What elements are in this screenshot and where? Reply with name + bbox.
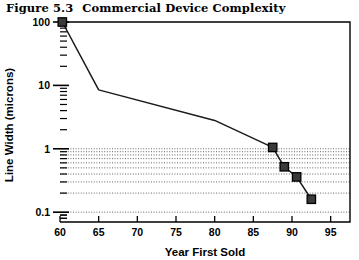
data-point-marker [268, 143, 276, 151]
y-tick-label: 0.1 [35, 206, 50, 218]
axis-tick-labels: 60657075808590951001010.1 [32, 16, 336, 238]
series-line [62, 22, 311, 199]
data-point-marker [280, 163, 288, 171]
axis-ticks [53, 22, 331, 222]
y-tick-label: 10 [38, 79, 50, 91]
data-point-marker [307, 195, 315, 203]
x-tick-label: 85 [247, 226, 259, 238]
figure-container: Figure 5.3Commercial Device Complexity 6… [0, 0, 359, 260]
x-tick-label: 65 [93, 226, 105, 238]
y-tick-label: 100 [32, 16, 50, 28]
y-tick-label: 1 [44, 143, 50, 155]
x-tick-label: 70 [131, 226, 143, 238]
y-axis-title: Line Width (microns) [3, 68, 15, 182]
x-tick-label: 95 [325, 226, 337, 238]
data-point-marker [58, 18, 66, 26]
x-tick-label: 80 [209, 226, 221, 238]
data-point-marker [292, 173, 300, 181]
x-tick-label: 90 [286, 226, 298, 238]
chart-plot: 60657075808590951001010.1 Year First Sol… [0, 0, 359, 260]
data-series [58, 18, 315, 204]
x-tick-label: 60 [54, 226, 66, 238]
x-tick-label: 75 [170, 226, 182, 238]
x-axis-title: Year First Sold [165, 246, 246, 258]
